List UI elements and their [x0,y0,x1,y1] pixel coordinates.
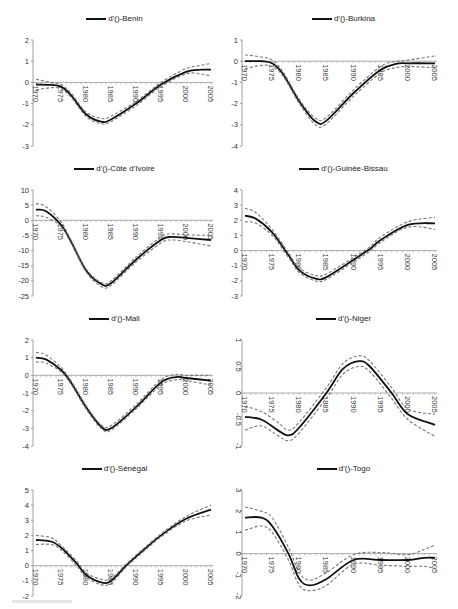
x-tick-label: 1980 [81,378,90,395]
x-tick-label: 2000 [403,254,412,271]
y-tick-label: -10 [18,246,29,255]
y-tick-label: 0 [25,371,29,380]
y-tick-label: -1 [22,389,29,398]
y-tick-label: 0 [234,246,238,255]
legend-line-swatch [312,18,332,20]
y-tick-label: -2 [22,120,29,129]
y-tick-label: 1 [234,36,238,45]
y-tick-label: -2 [231,276,238,285]
x-tick-label: 1980 [81,223,90,240]
y-tick-label: 1 [25,57,29,66]
x-tick-label: 1985 [321,64,330,81]
x-tick-label: 1980 [294,396,303,413]
legend: d'()-Niger [229,314,458,323]
y-tick-label: 0 [234,57,238,66]
x-tick-label: 2000 [181,85,190,102]
x-tick-label: 1990 [131,569,140,586]
x-tick-label: 2005 [206,223,215,240]
legend: d'()-Mali [0,314,229,323]
y-tick-label: -5 [22,231,29,240]
legend-line-swatch [299,168,319,170]
legend-line-swatch [316,318,336,320]
y-tick-label: 0 [25,78,29,87]
y-tick-label: 4 [234,186,238,195]
legend-label: d'()-Sénégal [104,464,147,473]
y-tick-label: -3 [231,120,238,129]
y-tick-label: -1 [231,78,238,87]
estimate-line [245,517,435,585]
x-tick-label: 1975 [56,569,65,586]
x-tick-label: 1975 [267,557,276,574]
legend-label: d'()-Guinée-Bissau [321,164,387,173]
legend-label: d'()-Burkina [334,14,375,23]
y-tick-label: -1 [22,99,29,108]
y-tick-label: -15 [18,261,29,270]
legend-label: d'()-Benin [108,14,142,23]
y-tick-label: -0.5 [234,413,243,426]
x-tick-label: 2005 [430,254,439,271]
legend-line-swatch [74,168,94,170]
legend-label: d'()-Côte d'Ivoire [96,164,155,173]
y-tick-label: 10 [21,186,29,195]
y-tick-label: 0 [25,561,29,570]
y-tick-label: 1 [25,353,29,362]
legend-label: d'()-Niger [338,314,371,323]
legend-line-swatch [86,18,106,20]
y-tick-label: -1 [22,576,29,585]
x-tick-label: 1970 [240,64,249,81]
x-tick-label: 2005 [430,557,439,574]
legend: d'()-Sénégal [0,464,229,473]
x-tick-label: 2005 [430,64,439,81]
y-tick-label: 2 [234,509,243,513]
y-tick-label: 0 [25,216,29,225]
y-tick-label: 2 [234,216,238,225]
legend-label: d'()-Togo [339,464,370,473]
x-tick-label: 2000 [181,569,190,586]
x-tick-label: 1990 [131,378,140,395]
y-tick-label: -20 [18,276,29,285]
panel-niger: 10.50-0.5-119701975198019851990199520002… [229,300,458,450]
x-tick-label: 2005 [430,396,439,413]
panel-guinee-bissau: 43210-1-2-319701975198019851990199520002… [229,150,458,300]
x-tick-label: 1980 [81,85,90,102]
x-tick-label: 1995 [376,396,385,413]
x-tick-label: 1985 [106,223,115,240]
y-tick-label: 5 [25,201,29,210]
panel-senegal: 543210-1-2197019751980198519901995200020… [0,450,229,600]
x-tick-label: 1990 [131,223,140,240]
x-tick-label: 1970 [240,557,249,574]
panel-benin: 210-1-2-31970197519801985199019952000200… [0,0,229,150]
x-tick-label: 1975 [267,396,276,413]
y-tick-label: -3 [22,424,29,433]
y-tick-label: 2 [25,36,29,45]
estimate-line [36,210,211,286]
x-tick-label: 1970 [31,569,40,586]
y-tick-label: 3 [234,201,238,210]
legend: d'()-Togo [229,464,458,473]
y-tick-label: 2 [25,336,29,345]
legend-line-swatch [317,468,337,470]
y-tick-label: 3 [25,516,29,525]
y-tick-label: 1 [234,530,243,534]
x-tick-label: 1970 [31,223,40,240]
legend-line-swatch [82,468,102,470]
legend: d'()-Benin [0,14,229,23]
y-tick-label: -2 [234,593,243,600]
panel-togo: 3210-1-219701975198019851990199520002005… [229,450,458,600]
y-tick-label: -1 [234,443,243,450]
y-tick-label: 4 [25,501,29,510]
y-tick-label: -2 [22,406,29,415]
x-tick-label: 1970 [31,378,40,395]
x-tick-label: 1985 [106,85,115,102]
x-tick-label: 1980 [294,64,303,81]
legend-label: d'()-Mali [111,314,140,323]
y-tick-label: 0.5 [234,361,243,371]
x-tick-label: 1970 [240,396,249,413]
y-tick-label: 1 [234,231,238,240]
x-tick-label: 1995 [376,254,385,271]
x-tick-label: 1995 [156,569,165,586]
y-tick-label: 1 [25,546,29,555]
panel-burkina: 10-1-2-3-4197019751980198519901995200020… [229,0,458,150]
y-tick-label: 3 [234,488,243,492]
figure-grid: 210-1-2-31970197519801985199019952000200… [0,0,458,609]
